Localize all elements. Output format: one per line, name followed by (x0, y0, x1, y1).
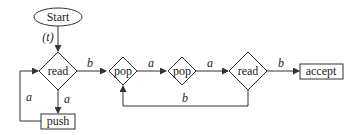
node-push: push (41, 114, 75, 129)
edge-read2-accept-label: b (278, 56, 284, 70)
node-accept: accept (300, 64, 343, 79)
edge-pop1-pop2: a (137, 56, 166, 71)
edge-start-read1-label: (t) (42, 30, 53, 44)
node-push-label: push (47, 114, 70, 128)
node-read2: read (229, 52, 267, 90)
edge-pop2-read2: a (196, 56, 228, 71)
edge-read2-pop1: b (123, 86, 248, 106)
edge-read2-accept: b (267, 56, 299, 71)
node-start-label: Start (47, 10, 70, 24)
edge-push-read1-label: a (26, 90, 32, 104)
node-read2-label: read (238, 64, 259, 78)
edge-pop2-read2-label: a (207, 56, 213, 70)
edge-read1-pop1-label: b (87, 56, 93, 70)
node-read1: read (39, 52, 77, 90)
edge-read1-push-label: a (64, 92, 70, 106)
node-read1-label: read (48, 64, 69, 78)
edge-start-read1: (t) (42, 26, 58, 51)
edge-read2-pop1-label: b (182, 91, 188, 105)
node-start: Start (34, 8, 82, 26)
node-pop2: pop (168, 57, 196, 85)
edge-read1-push: a (58, 90, 70, 113)
edge-read1-pop1: b (77, 56, 106, 71)
edge-push-read1: a (20, 71, 41, 121)
node-pop1-label: pop (114, 64, 132, 78)
node-pop1: pop (109, 57, 137, 85)
node-pop2-label: pop (173, 64, 191, 78)
flowchart-diagram: Start (t) read a push a b pop a (0, 0, 359, 135)
edge-pop1-pop2-label: a (148, 56, 154, 70)
node-accept-label: accept (306, 64, 337, 78)
